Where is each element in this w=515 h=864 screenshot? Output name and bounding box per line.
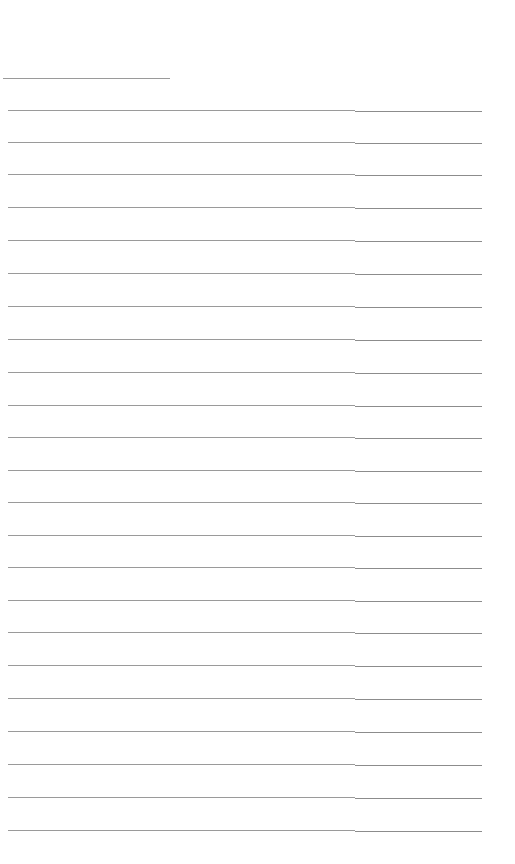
ruled-line-left-segment [8,405,355,406]
ruled-line [8,240,482,241]
ruled-line-left-segment [8,665,355,666]
ruled-line-right-segment [355,438,482,439]
ruled-line [8,372,482,373]
ruled-line [8,731,482,732]
ruled-line-right-segment [355,831,482,832]
ruled-line-left-segment [8,470,355,471]
ruled-line [8,502,482,503]
ruled-line-left-segment [8,797,355,798]
ruled-page [0,0,515,864]
ruled-line [8,273,482,274]
ruled-line-left-segment [8,437,355,438]
ruled-line [8,174,482,175]
ruled-line [8,764,482,765]
ruled-line-left-segment [8,110,355,111]
ruled-line-right-segment [355,406,482,407]
ruled-line-right-segment [355,471,482,472]
ruled-line-left-segment [8,207,355,208]
ruled-line-right-segment [355,666,482,667]
ruled-line-left-segment [8,174,355,175]
ruled-line-left-segment [8,535,355,536]
ruled-line-left-segment [8,306,355,307]
ruled-line-right-segment [355,503,482,504]
ruled-line [8,306,482,307]
ruled-line-right-segment [355,307,482,308]
ruled-line [8,470,482,471]
ruled-line [8,535,482,536]
ruled-line-right-segment [355,340,482,341]
ruled-line-left-segment [8,372,355,373]
ruled-line-right-segment [355,373,482,374]
ruled-line [8,110,482,111]
ruled-line [8,665,482,666]
ruled-line [8,567,482,568]
ruled-line-right-segment [355,274,482,275]
ruled-line-left-segment [8,142,355,143]
ruled-line [8,142,482,143]
ruled-line-right-segment [355,536,482,537]
ruled-line [8,437,482,438]
ruled-line-left-segment [8,339,355,340]
ruled-line-left-segment [8,731,355,732]
ruled-line-right-segment [355,798,482,799]
ruled-line [8,207,482,208]
ruled-line-right-segment [355,111,482,112]
ruled-line-left-segment [8,600,355,601]
ruled-line-right-segment [355,241,482,242]
ruled-line [8,830,482,831]
ruled-line-left-segment [8,240,355,241]
ruled-line-right-segment [355,208,482,209]
ruled-line-left-segment [8,567,355,568]
ruled-line-right-segment [355,699,482,700]
ruled-line-left-segment [8,273,355,274]
ruled-line [8,698,482,699]
ruled-line-right-segment [355,143,482,144]
ruled-line-right-segment [355,633,482,634]
ruled-line [8,600,482,601]
ruled-line-left-segment [8,632,355,633]
ruled-line-right-segment [355,765,482,766]
ruled-line-left-segment [8,830,355,831]
ruled-line [8,405,482,406]
ruled-line-right-segment [355,601,482,602]
ruled-line [8,339,482,340]
ruled-line [8,797,482,798]
ruled-line-right-segment [355,568,482,569]
ruled-line-left-segment [8,764,355,765]
header-line [3,78,170,79]
ruled-line-left-segment [8,502,355,503]
ruled-line-left-segment [8,698,355,699]
ruled-line-right-segment [355,175,482,176]
ruled-line [8,632,482,633]
ruled-line-right-segment [355,732,482,733]
